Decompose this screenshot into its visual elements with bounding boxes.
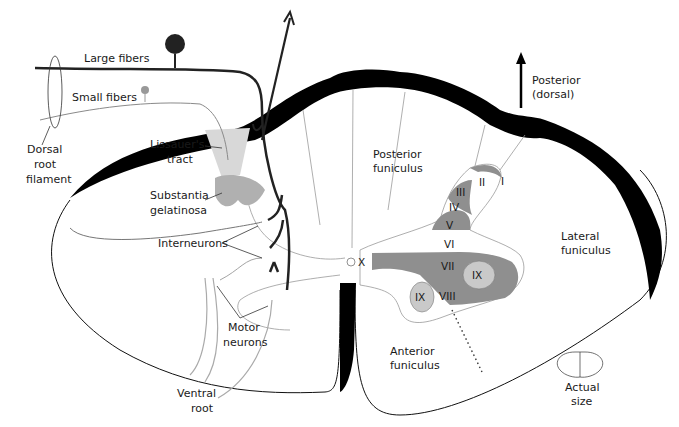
small-fiber [40, 103, 228, 160]
label-substantia-2: gelatinosa [150, 204, 207, 217]
small-fiber-soma [141, 86, 149, 94]
lamina-label-X: X [358, 256, 365, 268]
left-edge-band [340, 283, 356, 392]
motor-path [220, 258, 262, 280]
left-gray-outline [238, 190, 345, 330]
lamina-label-II: II [479, 176, 485, 188]
label-dorsal-root-1: Dorsal [27, 143, 62, 156]
label-actual-size-1: Actual [565, 381, 599, 394]
label-posterior-funiculus-2: funiculus [373, 162, 423, 175]
lamina-label-IV: IV [449, 201, 460, 213]
label-motor-2: neurons [223, 336, 268, 349]
diagram-canvas: Large fibers Small fibers Dorsal root fi… [0, 0, 679, 427]
label-posterior-dorsal-2: (dorsal) [532, 88, 574, 101]
label-actual-size-2: size [571, 395, 593, 408]
label-anterior-funiculus-2: funiculus [390, 359, 440, 372]
large-fiber-soma [165, 34, 185, 54]
lamina-label-VII: VII [441, 260, 454, 272]
label-dorsal-root-2: root [34, 158, 57, 171]
actual-size-icon [557, 352, 602, 377]
label-large-fibers: Large fibers [84, 52, 150, 65]
substantia-gelatinosa [215, 175, 265, 206]
label-motor-1: Motor [228, 321, 260, 334]
cord-outline [52, 170, 667, 415]
label-dorsal-root-3: filament [26, 173, 72, 186]
lamina-label-V: V [446, 219, 454, 231]
lamina-label-IX-lateral: IX [472, 269, 482, 281]
lamina-label-VIII: VIII [439, 290, 455, 302]
spinal-cord-diagram: Large fibers Small fibers Dorsal root fi… [0, 0, 679, 427]
lamina-label-III: III [456, 186, 465, 198]
label-lateral-funiculus-2: funiculus [561, 244, 611, 257]
label-anterior-funiculus-1: Anterior [390, 345, 435, 358]
central-canal [347, 258, 355, 266]
label-posterior-funiculus-1: Posterior [373, 148, 422, 161]
label-substantia-1: Substantia [150, 189, 209, 202]
label-small-fibers: Small fibers [72, 91, 137, 104]
lamina-label-VI: VI [444, 238, 454, 250]
label-ventral-2: root [191, 402, 214, 415]
posterior-arrowhead [516, 52, 526, 64]
label-lissauer-2: tract [167, 153, 194, 166]
lamina-label-IX-medial: IX [415, 291, 425, 303]
lamina-label-I: I [501, 175, 504, 187]
label-interneurons: Interneurons [158, 237, 228, 250]
label-lateral-funiculus-1: Lateral [561, 230, 599, 243]
dotted-boundary [452, 310, 482, 372]
dorsal-root-filament-ellipse [48, 56, 62, 128]
label-ventral-1: Ventral [177, 387, 216, 400]
label-lissauer-1: Lissauer's [150, 138, 205, 151]
label-posterior-dorsal-1: Posterior [532, 74, 581, 87]
